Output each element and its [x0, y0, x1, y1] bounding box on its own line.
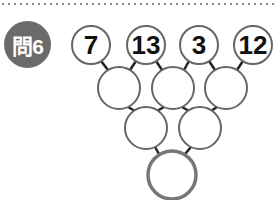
top-number-4: 12 — [234, 26, 272, 64]
top-number-1: 7 — [72, 26, 110, 64]
top-number-3: 3 — [180, 26, 218, 64]
top-number-2: 13 — [127, 26, 165, 64]
